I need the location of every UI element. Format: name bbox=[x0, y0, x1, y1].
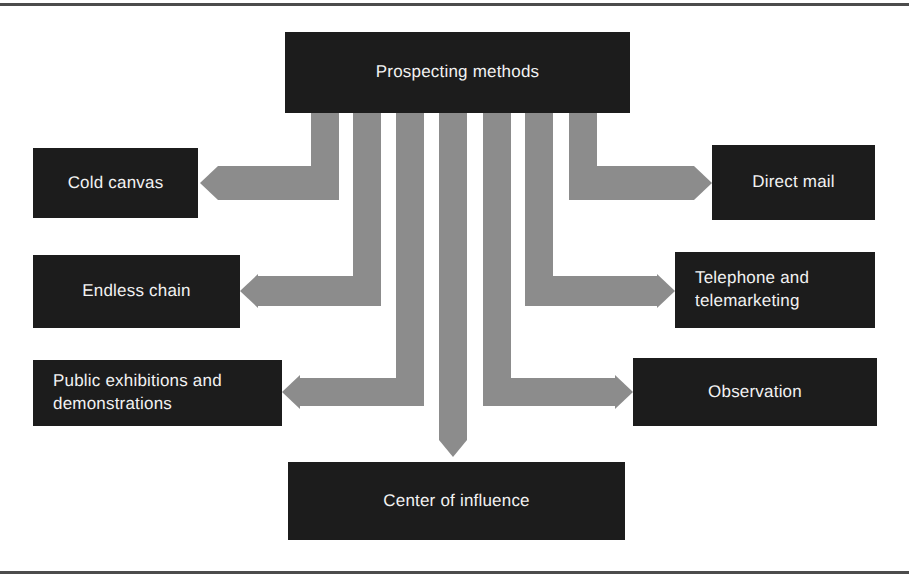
arrowhead-endless-chain bbox=[240, 274, 258, 308]
bottom-rule bbox=[0, 571, 909, 574]
diagram-canvas: Prospecting methods Cold canvas Endless … bbox=[0, 0, 909, 579]
arrowhead-telephone bbox=[657, 274, 675, 308]
connector-run-public-exhibitions bbox=[300, 378, 424, 406]
arrowhead-public-exhibitions bbox=[282, 375, 300, 409]
node-telephone-and-telemarketing[interactable]: Telephone and telemarketing bbox=[675, 252, 875, 328]
node-label: Center of influence bbox=[383, 490, 530, 513]
arrowhead-cold-canvas bbox=[200, 166, 218, 200]
connector-stem-center-of-influence bbox=[439, 113, 467, 440]
arrowhead-observation bbox=[615, 375, 633, 409]
connector-stem-observation bbox=[483, 113, 511, 406]
node-label: Endless chain bbox=[82, 280, 190, 303]
arrowhead-direct-mail bbox=[694, 166, 712, 200]
node-public-exhibitions-and-demonstrations[interactable]: Public exhibitions and demonstrations bbox=[33, 360, 282, 426]
node-label: Public exhibitions and demonstrations bbox=[53, 370, 222, 416]
node-direct-mail[interactable]: Direct mail bbox=[712, 145, 875, 220]
node-prospecting-methods[interactable]: Prospecting methods bbox=[285, 32, 630, 113]
connector-run-cold-canvas bbox=[218, 166, 339, 200]
node-label: Direct mail bbox=[752, 171, 835, 194]
node-center-of-influence[interactable]: Center of influence bbox=[288, 462, 625, 540]
connector-run-endless-chain bbox=[258, 276, 381, 306]
connector-run-direct-mail bbox=[569, 166, 694, 200]
node-label: Prospecting methods bbox=[376, 61, 540, 84]
node-label: Telephone and telemarketing bbox=[695, 267, 809, 313]
node-label: Cold canvas bbox=[68, 172, 164, 195]
node-cold-canvas[interactable]: Cold canvas bbox=[33, 148, 198, 218]
connector-run-observation bbox=[483, 378, 615, 406]
top-rule bbox=[0, 3, 909, 6]
arrowhead-center-of-influence bbox=[439, 440, 467, 457]
node-observation[interactable]: Observation bbox=[633, 358, 877, 426]
node-endless-chain[interactable]: Endless chain bbox=[33, 255, 240, 328]
connector-run-telephone bbox=[525, 276, 657, 306]
connector-stem-public-exhibitions bbox=[396, 113, 424, 406]
node-label: Observation bbox=[708, 381, 802, 404]
